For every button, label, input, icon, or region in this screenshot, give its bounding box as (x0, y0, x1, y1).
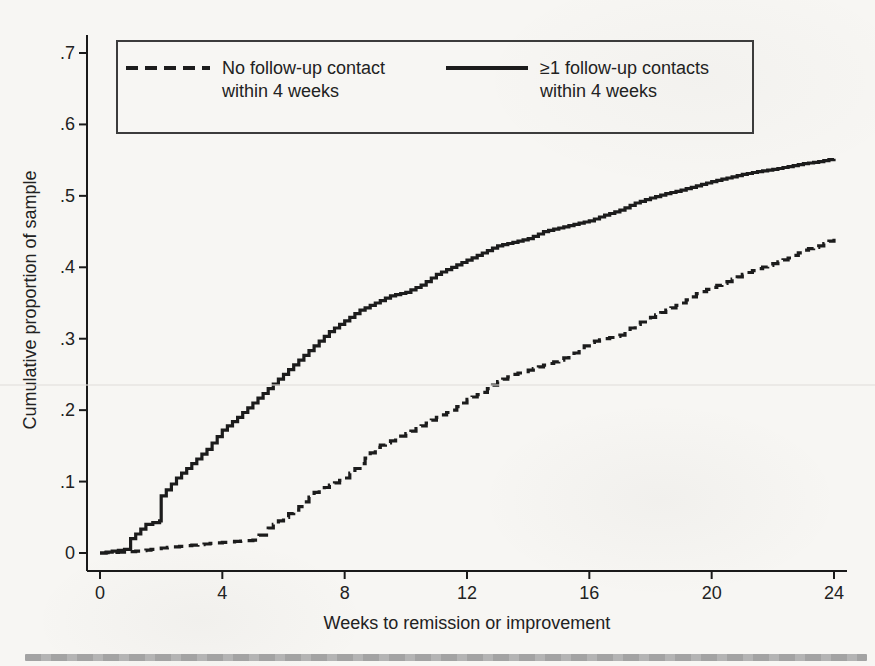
page-bottom-rule (25, 654, 867, 661)
series-curve-no-followup (100, 239, 834, 553)
legend-label-no-followup: No follow-up contact within 4 weeks (222, 57, 412, 103)
scanned-page: .7.6.5.4.3.2.1004812162024 No follow-up … (0, 0, 875, 666)
x-tick-label: 20 (702, 583, 722, 603)
legend-entry-followup: ≥1 follow-up contacts within 4 weeks (446, 57, 730, 103)
series-curve-followup (100, 159, 834, 553)
y-tick-label: .3 (60, 329, 75, 349)
y-tick-label: .4 (60, 257, 75, 277)
x-tick-label: 24 (824, 583, 844, 603)
x-tick-label: 12 (457, 583, 477, 603)
y-tick-label: .7 (60, 43, 75, 63)
x-axis-title: Weeks to remission or improvement (87, 613, 847, 634)
legend-entry-no-followup: No follow-up contact within 4 weeks (126, 57, 412, 103)
y-tick-label: .5 (60, 186, 75, 206)
x-tick-label: 4 (217, 583, 227, 603)
y-tick-label: 0 (65, 543, 75, 563)
y-tick-label: .1 (60, 472, 75, 492)
scan-fold-artifact (0, 384, 875, 386)
legend: No follow-up contact within 4 weeks ≥1 f… (116, 40, 754, 134)
legend-label-followup: ≥1 follow-up contacts within 4 weeks (540, 57, 730, 103)
dashed-line-swatch (126, 66, 210, 70)
x-tick-label: 16 (579, 583, 599, 603)
solid-line-swatch (446, 66, 528, 70)
x-tick-label: 8 (340, 583, 350, 603)
y-axis-title: Cumulative proportion of sample (20, 170, 41, 429)
y-tick-label: .2 (60, 400, 75, 420)
y-tick-label: .6 (60, 114, 75, 134)
x-tick-label: 0 (95, 583, 105, 603)
